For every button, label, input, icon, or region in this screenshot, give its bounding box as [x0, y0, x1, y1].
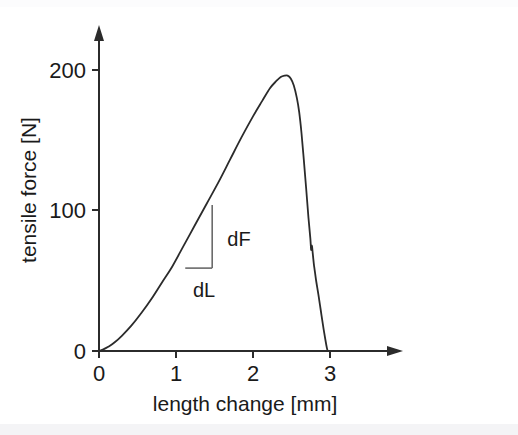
x-tick-label-2: 2: [247, 361, 259, 386]
x-tick-label-1: 1: [170, 361, 182, 386]
y-tick-label-0: 0: [74, 339, 86, 364]
x-axis-title: length change [mm]: [153, 392, 337, 415]
force-extension-chart: 200 100 0 0 1 2 3 length change [mm] ten…: [0, 0, 518, 435]
x-tick-label-3: 3: [324, 361, 336, 386]
x-tick-group: 0 1 2 3: [93, 351, 336, 386]
axis-group: [94, 25, 403, 356]
force-extension-curve: [99, 75, 328, 351]
y-axis-title: tensile force [N]: [17, 117, 40, 263]
y-tick-group: 200 100 0: [49, 58, 99, 364]
y-tick-label-200: 200: [49, 58, 86, 83]
y-axis-arrow-icon: [94, 25, 104, 41]
figure-container: 200 100 0 0 1 2 3 length change [mm] ten…: [0, 0, 518, 435]
dL-label: dL: [193, 279, 215, 301]
x-axis-arrow-icon: [387, 346, 403, 356]
slope-triangle-annotation: dF dL: [185, 205, 250, 301]
y-tick-label-100: 100: [49, 198, 86, 223]
x-tick-label-0: 0: [93, 361, 105, 386]
dF-label: dF: [227, 228, 250, 250]
